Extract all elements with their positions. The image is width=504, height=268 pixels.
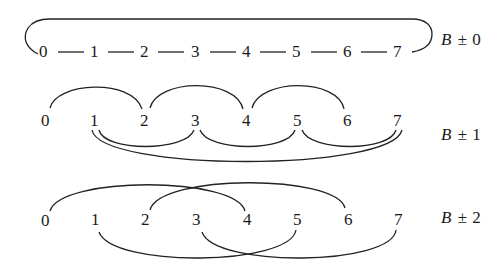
row-b-plus-minus-2: 0 1 2 3 4 5 6 7 B ± 2 [41,183,481,258]
node-1: 1 [91,210,100,229]
node-0: 0 [41,211,50,230]
node-5: 5 [292,42,301,61]
node-1: 1 [90,111,99,130]
arc-3-7 [202,230,396,258]
row-b-plus-minus-1: 0 1 2 3 4 5 6 7 B ± 1 [41,86,481,162]
node-3: 3 [191,42,200,61]
row-label-b-pm-1: B ± 1 [441,125,481,144]
difference-graph-diagram: 0 1 2 3 4 5 6 7 B ± 0 0 1 2 3 4 5 6 7 [0,0,504,268]
node-4: 4 [242,111,251,130]
node-3: 3 [192,210,201,229]
arc-0-4 [50,185,245,211]
node-5: 5 [293,111,302,130]
arc-1-3 [99,130,194,147]
node-0: 0 [41,111,50,130]
arc-5-7 [302,130,396,147]
arc-4-6 [252,86,344,109]
node-2: 2 [141,210,150,229]
node-0: 0 [39,42,48,61]
node-6: 6 [344,210,353,229]
wraparound-arc-7-0 [25,19,432,54]
row-label-b-pm-0: B ± 0 [441,30,481,49]
node-3: 3 [191,111,200,130]
node-2: 2 [140,111,149,130]
arc-2-6 [150,183,345,210]
node-4: 4 [243,210,252,229]
node-4: 4 [242,42,251,61]
node-2: 2 [140,42,149,61]
row-label-b-pm-2: B ± 2 [441,208,481,227]
node-6: 6 [343,42,352,61]
node-6: 6 [343,111,352,130]
node-7: 7 [393,42,402,61]
arc-0-2 [50,87,142,109]
arc-1-5 [99,230,296,258]
arc-3-5 [200,130,295,147]
node-7: 7 [394,210,403,229]
node-7: 7 [393,111,402,130]
row-b-plus-minus-0: 0 1 2 3 4 5 6 7 B ± 0 [25,19,480,61]
node-5: 5 [293,210,302,229]
node-1: 1 [90,42,99,61]
arc-2-4 [150,86,243,109]
